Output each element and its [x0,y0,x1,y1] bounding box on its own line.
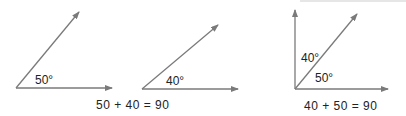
angle-a [16,12,112,88]
angle-b-label: 40° [166,75,184,87]
combined-lower-label: 50° [315,72,333,84]
equation-right: 40 + 50 = 90 [304,100,377,112]
angle-b [142,25,238,89]
combined-right-angle [295,10,388,89]
angle-a-label: 50° [35,74,53,86]
equation-left: 50 + 40 = 90 [96,99,169,111]
combined-upper-label: 40° [301,52,319,64]
